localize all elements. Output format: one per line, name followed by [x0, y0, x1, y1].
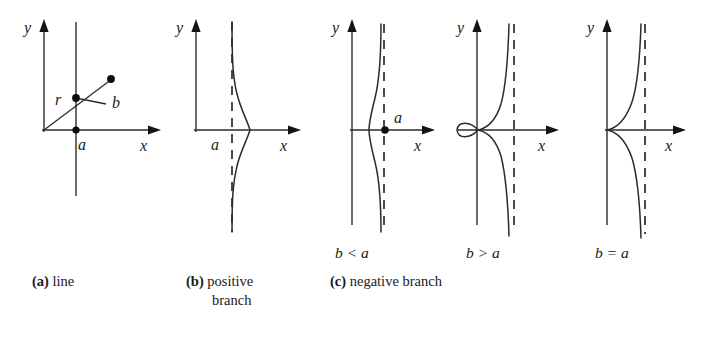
panel-c1-graphics — [347, 19, 435, 232]
panel-b-asymptote-label: a — [211, 137, 219, 153]
panel-a-point-b-label: b — [112, 95, 120, 111]
panel-a-y-axis-label: y — [24, 20, 31, 36]
panel-c1-point-a-dot — [381, 126, 389, 134]
panel-a-point-r-dot — [72, 94, 80, 102]
caption-b-tag: (b) — [186, 273, 204, 289]
caption-a-text: line — [53, 273, 75, 289]
panel-c3-graphics — [602, 19, 686, 238]
panel-c1-x-axis-label: x — [414, 138, 421, 154]
panel-b-x-axis-arrow-icon — [288, 125, 301, 134]
panel-c3-y-axis-arrow-icon — [602, 19, 611, 32]
panel-c2-x-axis-arrow-icon — [546, 125, 559, 134]
panel-a-point-a-dot — [72, 126, 79, 133]
panel-b-curve — [232, 22, 250, 232]
caption-b: (b) positive branch — [186, 272, 316, 309]
panel-c3-x-axis-label: x — [665, 138, 672, 154]
panel-c2-x-axis-label: x — [538, 138, 545, 154]
panel-c2-upper-branch — [478, 24, 509, 130]
panel-c3-x-axis-arrow-icon — [673, 125, 686, 134]
panel-b-graphics — [191, 19, 301, 232]
figure-container: y x r a b y x a y x a y x y x b < a b > … — [0, 0, 707, 338]
panel-b-y-axis-label: y — [176, 20, 183, 36]
panel-a-radius-label: r — [55, 92, 61, 108]
panel-a-y-axis-arrow-icon — [39, 19, 48, 32]
panel-c1-x-axis-arrow-icon — [422, 125, 435, 134]
panel-b-y-axis-arrow-icon — [191, 19, 200, 32]
panel-c2-lower-branch — [478, 130, 509, 236]
panel-c2-y-axis-label: y — [457, 20, 464, 36]
panel-a-x-axis-label: x — [140, 138, 147, 154]
panel-c2-y-axis-arrow-icon — [472, 19, 481, 32]
panel-a-x-axis-arrow-icon — [148, 125, 161, 134]
condition-label-b-greater-than-a: b > a — [466, 245, 500, 261]
panel-c3-upper-branch — [607, 24, 641, 130]
caption-a: (a) line — [32, 272, 162, 291]
caption-b-text-line1: positive — [207, 273, 253, 289]
panel-c3-lower-branch — [607, 130, 641, 238]
panel-c1-curve — [369, 24, 381, 232]
caption-c-text: negative branch — [350, 273, 442, 289]
panel-c1-point-a-label: a — [394, 110, 402, 126]
panel-c1-y-axis-label: y — [332, 20, 339, 36]
caption-c-tag: (c) — [330, 273, 346, 289]
condition-label-b-less-than-a: b < a — [335, 245, 369, 261]
panel-c2-graphics — [457, 19, 559, 236]
panel-a-point-a-label: a — [78, 137, 86, 153]
caption-b-text-line2: branch — [186, 291, 316, 310]
caption-c: (c) negative branch — [330, 272, 560, 291]
condition-label-b-equals-a: b = a — [595, 245, 629, 261]
caption-a-tag: (a) — [32, 273, 49, 289]
panel-a-point-b-dot — [107, 75, 115, 83]
panel-b-x-axis-label: x — [280, 138, 287, 154]
panel-c3-y-axis-label: y — [587, 20, 594, 36]
panel-c1-y-axis-arrow-icon — [347, 19, 356, 32]
